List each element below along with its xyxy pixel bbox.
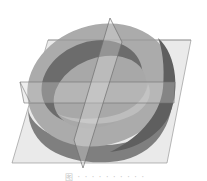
figure-caption: 图 · · · · · · · · · · [30, 173, 180, 181]
ring-cross-section-diagram [0, 0, 207, 181]
